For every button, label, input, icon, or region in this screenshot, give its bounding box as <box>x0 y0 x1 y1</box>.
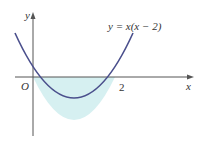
origin-label: O <box>21 81 29 92</box>
x-axis-label: x <box>186 81 191 92</box>
y-axis-label: y <box>25 10 30 21</box>
graph-canvas <box>0 0 201 148</box>
y-axis-arrow-icon <box>31 12 36 19</box>
x-axis-arrow-icon <box>187 75 194 80</box>
equation-label: y = x(x − 2) <box>108 21 161 32</box>
root-label-2: 2 <box>119 82 125 93</box>
